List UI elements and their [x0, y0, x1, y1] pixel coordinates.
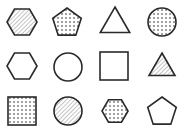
none-pentagon-icon: [148, 97, 177, 124]
none-square-icon: [100, 52, 128, 80]
shape-grid: [0, 0, 188, 138]
dotted-hexagon-icon: [102, 100, 128, 123]
dotted-pentagon-icon: [53, 8, 82, 35]
dotted-square-icon: [8, 97, 36, 125]
shape-layer: [7, 7, 176, 125]
dotted-circle-icon: [148, 8, 176, 36]
none-triangle-icon: [100, 7, 129, 33]
shapes-canvas: [0, 0, 188, 138]
hatched-triangle-icon: [149, 53, 175, 76]
none-circle-icon: [54, 53, 82, 81]
hatched-hexagon-icon: [7, 9, 37, 35]
none-hexagon-icon: [7, 53, 37, 79]
hatched-circle-icon: [54, 97, 82, 125]
